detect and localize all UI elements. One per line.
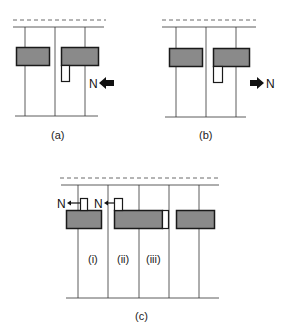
white-notch — [81, 199, 88, 211]
arrow-left-icon — [104, 201, 108, 206]
white-notch — [115, 199, 123, 211]
panel-c: N N (i) (ii) (iii) (c) — [57, 178, 219, 322]
gray-bar — [170, 49, 203, 67]
north-label: N — [89, 77, 98, 91]
diagram-canvas: N (a) N (b) N N — [0, 0, 288, 328]
north-label: N — [94, 197, 103, 211]
white-gap-segment — [163, 211, 169, 229]
gray-bar — [115, 211, 163, 229]
gray-bar — [177, 211, 215, 229]
panel-b: N (b) — [162, 20, 275, 141]
caption-b: (b) — [199, 129, 212, 141]
white-notch — [214, 67, 223, 83]
gray-bar — [214, 49, 250, 67]
arrow-left-icon — [99, 77, 114, 89]
gray-bar — [62, 48, 99, 66]
arrow-left-icon — [67, 201, 71, 206]
north-label: N — [57, 197, 66, 211]
region-label-i: (i) — [88, 253, 98, 265]
region-label-iii: (iii) — [146, 253, 161, 265]
panel-a: N (a) — [13, 20, 114, 141]
region-label-ii: (ii) — [117, 253, 129, 265]
white-notch — [62, 66, 70, 82]
gray-bar — [67, 211, 102, 229]
gray-bar — [17, 48, 50, 66]
caption-a: (a) — [51, 129, 64, 141]
north-label: N — [266, 77, 275, 91]
caption-c: (c) — [135, 310, 148, 322]
arrow-right-icon — [250, 77, 264, 89]
